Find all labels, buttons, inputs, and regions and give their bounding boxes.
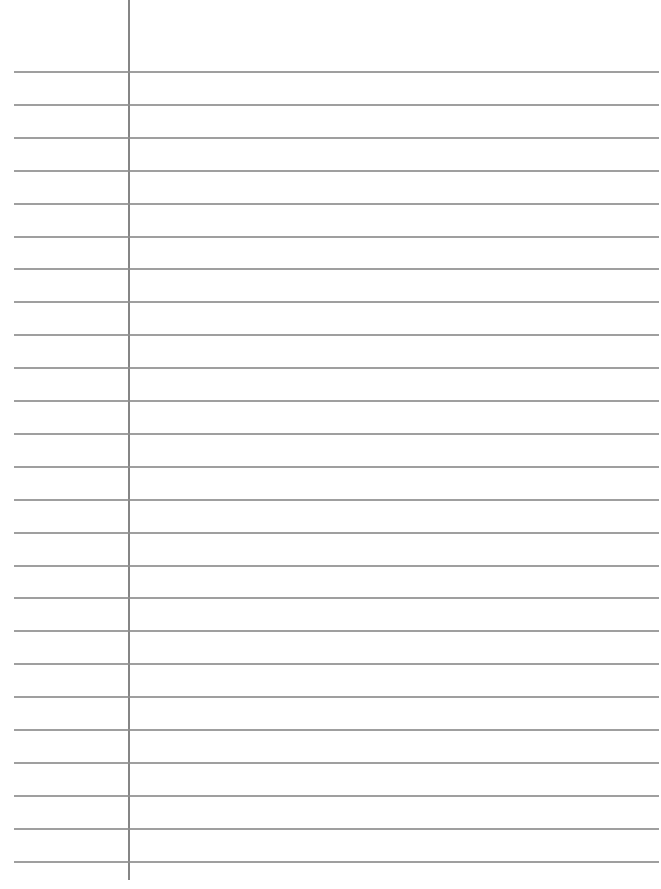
ruled-line bbox=[14, 104, 659, 106]
margin-line bbox=[128, 0, 130, 880]
ruled-line bbox=[14, 532, 659, 534]
ruled-line bbox=[14, 71, 659, 73]
ruled-line bbox=[14, 762, 659, 764]
ruled-line bbox=[14, 565, 659, 567]
ruled-line bbox=[14, 137, 659, 139]
ruled-line bbox=[14, 170, 659, 172]
ruled-line bbox=[14, 861, 659, 863]
ruled-line bbox=[14, 499, 659, 501]
ruled-line bbox=[14, 203, 659, 205]
ruled-line bbox=[14, 828, 659, 830]
ruled-line bbox=[14, 367, 659, 369]
lined-paper bbox=[0, 0, 661, 889]
ruled-line bbox=[14, 663, 659, 665]
ruled-line bbox=[14, 597, 659, 599]
ruled-line bbox=[14, 433, 659, 435]
ruled-line bbox=[14, 301, 659, 303]
ruled-line bbox=[14, 334, 659, 336]
ruled-line bbox=[14, 236, 659, 238]
ruled-line bbox=[14, 696, 659, 698]
ruled-line bbox=[14, 466, 659, 468]
ruled-line bbox=[14, 630, 659, 632]
ruled-line bbox=[14, 729, 659, 731]
ruled-line bbox=[14, 268, 659, 270]
ruled-line bbox=[14, 795, 659, 797]
ruled-line bbox=[14, 400, 659, 402]
